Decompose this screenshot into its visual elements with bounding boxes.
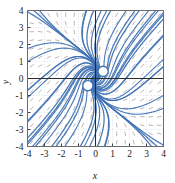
x-axis-tick-labels: -4-3-2-101234 — [24, 149, 167, 159]
y-tick-label: -4 — [16, 142, 24, 152]
x-tick-label: 3 — [144, 149, 149, 159]
y-tick-label: 1 — [19, 57, 24, 67]
phase-portrait-svg: -4-3-2-101234 43210-1-2-3-4 x y — [0, 0, 175, 183]
x-tick-label: -4 — [24, 149, 32, 159]
x-axis-title: x — [92, 170, 98, 181]
phase-portrait-figure: -4-3-2-101234 43210-1-2-3-4 x y — [0, 0, 175, 183]
x-tick-label: 1 — [110, 149, 115, 159]
x-tick-label: -3 — [41, 149, 49, 159]
x-tick-label: -1 — [75, 149, 83, 159]
y-tick-label: 4 — [19, 6, 24, 16]
y-tick-label: 3 — [19, 23, 24, 33]
y-tick-label: 2 — [19, 40, 24, 50]
x-tick-label: 4 — [161, 149, 166, 159]
x-tick-label: 2 — [127, 149, 132, 159]
y-tick-label: -1 — [16, 91, 24, 101]
y-tick-label: -3 — [16, 125, 24, 135]
x-tick-label: 0 — [93, 149, 98, 159]
y-tick-label: 0 — [19, 74, 24, 84]
y-tick-label: -2 — [16, 108, 24, 118]
x-tick-label: -2 — [58, 149, 66, 159]
y-axis-title: y — [0, 79, 11, 85]
